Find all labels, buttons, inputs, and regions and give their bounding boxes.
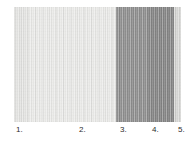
tick-label-2: 2. (79, 124, 86, 135)
tick-label-1: 1. (16, 124, 23, 135)
tick-label-5: 5. (178, 124, 185, 135)
band-4-darker (148, 7, 174, 122)
band-3-dark (116, 7, 148, 122)
axis-tick-label-row: 1. 2. 3. 4. 5. (0, 124, 188, 141)
tick-label-4: 4. (152, 124, 159, 135)
grayscale-image-strip (14, 7, 181, 122)
band-5-light (174, 7, 181, 122)
band-2-light (28, 7, 116, 122)
figure-container: 1. 2. 3. 4. 5. (0, 0, 188, 141)
band-1-light (14, 7, 28, 122)
tick-label-3: 3. (120, 124, 127, 135)
